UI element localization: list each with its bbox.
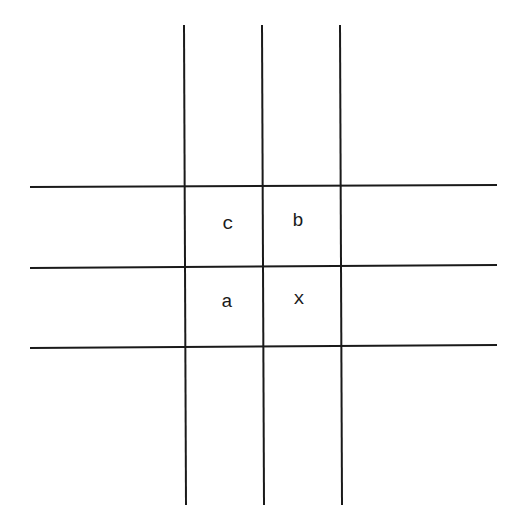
grid-diagram [0, 0, 516, 524]
horizontal-line-1 [30, 185, 497, 187]
cell-label-c: c [213, 214, 243, 234]
vertical-line-2 [262, 25, 264, 505]
vertical-line-1 [184, 25, 186, 505]
cell-label-b: b [283, 211, 313, 231]
cell-label-a: a [212, 292, 242, 312]
cell-label-x: x [284, 289, 314, 309]
